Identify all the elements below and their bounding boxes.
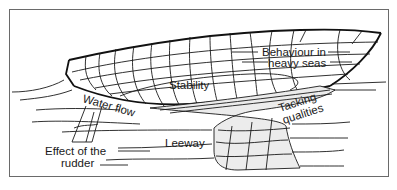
- label-stability: Stability: [169, 79, 210, 91]
- label-rudder-line2: rudder: [61, 157, 94, 169]
- label-behaviour-line2: heavy seas: [268, 57, 326, 69]
- rudder: [72, 106, 102, 142]
- label-leeway: Leeway: [165, 137, 205, 149]
- label-rudder-line1: Effect of the: [45, 145, 106, 157]
- hull-diagram: Behaviour in heavy seas Stability Water …: [0, 0, 397, 190]
